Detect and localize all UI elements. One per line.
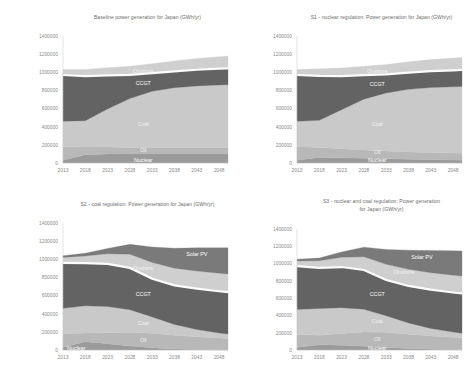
chart-title-s1_nuclear_regulation: S1 - nuclear regulation: Power generatio… — [311, 14, 453, 20]
y-tick-label: 0 — [55, 161, 58, 166]
y-tick-label: 1400000 — [39, 221, 58, 226]
x-tick-label: 2018 — [314, 355, 325, 360]
x-tick-label: 2018 — [80, 168, 91, 173]
y-tick-label: 400000 — [276, 125, 293, 130]
figure-canvas: Baseline power generation for Japan (GWh… — [0, 0, 468, 374]
y-tick-label: 1400000 — [273, 227, 292, 232]
chart-title-baseline: Baseline power generation for Japan (GWh… — [94, 14, 201, 20]
y-tick-label: 200000 — [42, 143, 59, 148]
series-label-coal: Coal — [138, 320, 149, 326]
x-tick-label: 2038 — [403, 168, 414, 173]
x-tick-label: 2033 — [147, 355, 158, 360]
y-tick-label: 0 — [289, 161, 292, 166]
series-label-solar-pv: Solar PV — [186, 251, 208, 257]
y-tick-label: 400000 — [42, 312, 59, 317]
chart-svg-s2_coal_regulation: S2 - coal regulation: Power generation f… — [0, 187, 234, 374]
x-tick-label: 2023 — [102, 355, 113, 360]
series-label-onshore: Onshore — [367, 68, 388, 74]
chart-panel-baseline: Baseline power generation for Japan (GWh… — [0, 0, 234, 187]
chart-svg-baseline: Baseline power generation for Japan (GWh… — [0, 0, 234, 187]
chart-panel-s3: S3 - nuclear and coal regulation: Power … — [234, 187, 468, 374]
x-tick-label: 2043 — [191, 355, 202, 360]
y-tick-label: 1200000 — [39, 239, 58, 244]
y-tick-label: 1400000 — [39, 34, 58, 39]
chart-svg-s1_nuclear_regulation: S1 - nuclear regulation: Power generatio… — [234, 0, 468, 187]
y-tick-label: 1200000 — [39, 52, 58, 57]
y-tick-label: 600000 — [276, 296, 293, 301]
y-tick-label: 800000 — [42, 88, 59, 93]
y-tick-label: 600000 — [42, 106, 59, 111]
y-tick-label: 1000000 — [273, 70, 292, 75]
x-tick-label: 2023 — [336, 355, 347, 360]
series-label-ccgt: CCGT — [370, 81, 386, 87]
x-tick-label: 2028 — [124, 168, 135, 173]
chart-svg-s3_nuclear_and_coal_regulation: S3 - nuclear and coal regulation: Power … — [234, 187, 468, 374]
x-tick-label: 2013 — [58, 168, 69, 173]
x-tick-label: 2028 — [358, 168, 369, 173]
y-tick-label: 400000 — [42, 125, 59, 130]
y-tick-label: 0 — [289, 348, 292, 353]
y-tick-label: 200000 — [42, 330, 59, 335]
y-tick-label: 600000 — [276, 106, 293, 111]
x-tick-label: 2018 — [80, 355, 91, 360]
x-tick-label: 2033 — [381, 168, 392, 173]
y-tick-label: 600000 — [42, 293, 59, 298]
x-tick-label: 2013 — [292, 168, 303, 173]
y-tick-label: 800000 — [42, 275, 59, 280]
y-tick-label: 1200000 — [273, 244, 292, 249]
y-tick-label: 200000 — [276, 143, 293, 148]
y-tick-label: 1000000 — [273, 261, 292, 266]
series-label-onshore: Onshore — [133, 68, 154, 74]
x-tick-label: 2048 — [214, 355, 225, 360]
y-tick-label: 1000000 — [39, 70, 58, 75]
y-tick-label: 800000 — [276, 88, 293, 93]
y-tick-label: 1200000 — [273, 52, 292, 57]
x-tick-label: 2043 — [191, 168, 202, 173]
x-tick-label: 2023 — [102, 168, 113, 173]
x-tick-label: 2048 — [448, 168, 459, 173]
x-tick-label: 2043 — [425, 168, 436, 173]
series-label-coal: Coal — [372, 318, 383, 324]
x-tick-label: 2028 — [124, 355, 135, 360]
series-label-oil: Oil — [140, 147, 147, 153]
series-label-coal: Coal — [372, 121, 383, 127]
chart-title-s2_coal_regulation: S2 - coal regulation: Power generation f… — [80, 201, 214, 207]
chart-title-s3_nuclear_and_coal_regulation: S3 - nuclear and coal regulation: Power … — [323, 198, 440, 204]
chart-panel-s1: S1 - nuclear regulation: Power generatio… — [234, 0, 468, 187]
series-label-onshore: Onshore — [133, 265, 154, 271]
series-label-ccgt: CCGT — [136, 291, 152, 297]
chart-panel-s2: S2 - coal regulation: Power generation f… — [0, 187, 234, 374]
y-tick-label: 200000 — [276, 331, 293, 336]
x-tick-label: 2038 — [169, 168, 180, 173]
series-label-nuclear: Nuclear — [134, 157, 153, 163]
series-label-nuclear: Nuclear — [368, 345, 387, 351]
series-label-ccgt: CCGT — [136, 80, 152, 86]
series-label-onshore: Onshore — [394, 269, 415, 275]
x-tick-label: 2013 — [292, 355, 303, 360]
chart-title-s3_nuclear_and_coal_regulation: for Japan (GWh/yr) — [359, 206, 403, 212]
x-tick-label: 2038 — [169, 355, 180, 360]
series-label-nuclear: Nuclear — [368, 157, 387, 163]
x-tick-label: 2033 — [147, 168, 158, 173]
x-tick-label: 2028 — [358, 355, 369, 360]
x-tick-label: 2018 — [314, 168, 325, 173]
series-label-coal: Coal — [138, 121, 149, 127]
x-tick-label: 2038 — [403, 355, 414, 360]
y-tick-label: 1000000 — [39, 257, 58, 262]
series-label-oil: Oil — [140, 337, 147, 343]
y-tick-label: 400000 — [276, 313, 293, 318]
y-tick-label: 800000 — [276, 279, 293, 284]
x-tick-label: 2023 — [336, 168, 347, 173]
y-tick-label: 1400000 — [273, 34, 292, 39]
x-tick-label: 2048 — [448, 355, 459, 360]
y-tick-label: 0 — [55, 348, 58, 353]
x-tick-label: 2013 — [58, 355, 69, 360]
series-label-oil: Oil — [374, 149, 381, 155]
x-tick-label: 2043 — [425, 355, 436, 360]
series-label-ccgt: CCGT — [370, 291, 386, 297]
series-label-solar-pv: Solar PV — [411, 254, 433, 260]
x-tick-label: 2033 — [381, 355, 392, 360]
x-tick-label: 2048 — [214, 168, 225, 173]
series-label-oil: Oil — [374, 336, 381, 342]
